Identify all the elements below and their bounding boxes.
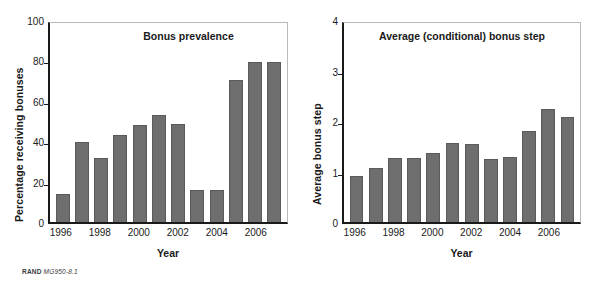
figure-container: Percentage receiving bonuses 02040608010… <box>0 0 591 294</box>
bar <box>190 190 204 222</box>
bar-slot <box>169 23 188 222</box>
bar-slot <box>92 23 111 222</box>
y-axis-tick-label: 20 <box>33 179 44 189</box>
y-axis-tick-label: 0 <box>38 219 44 229</box>
chart-panels: Percentage receiving bonuses 02040608010… <box>0 0 591 262</box>
x-axis-tick-label: 2006 <box>245 228 267 238</box>
bar <box>171 124 185 222</box>
figure-number: MG950-8.1 <box>44 268 78 275</box>
chart-panel-bonus-prevalence: Percentage receiving bonuses 02040608010… <box>0 0 296 262</box>
bar-slot <box>72 23 91 222</box>
bar <box>369 168 383 222</box>
bar-slot <box>558 23 577 222</box>
y-axis-tick-mark <box>338 74 344 75</box>
y-axis-tick-label: 80 <box>33 57 44 67</box>
bar-slot <box>246 23 265 222</box>
y-axis-tick-mark <box>338 124 344 125</box>
bar-slot <box>539 23 558 222</box>
y-axis-tick-label: 100 <box>27 17 44 27</box>
bar <box>75 142 89 222</box>
y-axis-tick-mark <box>44 63 50 64</box>
bar-slot <box>500 23 519 222</box>
bar <box>94 158 108 222</box>
bar-slot <box>366 23 385 222</box>
bar-slot <box>385 23 404 222</box>
y-axis-ticks: 01234 <box>296 22 338 224</box>
bar-slot <box>405 23 424 222</box>
bar <box>267 62 281 222</box>
y-axis-tick-label: 40 <box>33 138 44 148</box>
x-axis-ticks: 199619982000200220042006 <box>342 228 581 244</box>
x-axis-tick-label: 2002 <box>460 228 482 238</box>
x-axis-tick-label: 1998 <box>382 228 404 238</box>
bar-slot <box>111 23 130 222</box>
x-axis-ticks: 199619982000200220042006 <box>48 228 288 244</box>
bar-slot <box>347 23 366 222</box>
y-axis-tick-label: 3 <box>332 68 338 78</box>
bar-slot <box>443 23 462 222</box>
bar <box>465 144 479 222</box>
bar <box>229 80 243 222</box>
bar-slot <box>207 23 226 222</box>
plot-area: Bonus prevalence <box>48 22 288 224</box>
x-axis-label: Year <box>48 247 288 259</box>
x-axis-tick-label: 2004 <box>499 228 521 238</box>
x-axis-label: Year <box>342 247 581 259</box>
bar <box>407 158 421 222</box>
y-axis-ticks: 020406080100 <box>0 22 44 224</box>
bar-slot <box>149 23 168 222</box>
source-note: RANDMG950-8.1 <box>22 268 78 275</box>
y-axis-tick-label: 2 <box>332 118 338 128</box>
bar <box>484 159 498 222</box>
x-axis-tick-label: 1998 <box>89 228 111 238</box>
plot-area: Average (conditional) bonus step <box>342 22 581 224</box>
bar <box>561 117 575 222</box>
y-axis-tick-label: 4 <box>332 17 338 27</box>
bar-slot <box>188 23 207 222</box>
y-axis-tick-mark <box>44 144 50 145</box>
bar <box>152 115 166 222</box>
bar-slot <box>481 23 500 222</box>
bar-slot <box>53 23 72 222</box>
bar <box>56 194 70 222</box>
bar <box>133 125 147 222</box>
x-axis-tick-label: 2006 <box>538 228 560 238</box>
bar <box>503 157 517 222</box>
y-axis-tick-label: 1 <box>332 169 338 179</box>
x-axis-tick-label: 1996 <box>50 228 72 238</box>
bar <box>210 190 224 222</box>
bar-slot <box>462 23 481 222</box>
bar-slot <box>424 23 443 222</box>
x-axis-tick-label: 2004 <box>206 228 228 238</box>
bar-series <box>344 23 580 222</box>
source-org: RAND <box>22 268 42 275</box>
y-axis-tick-mark <box>338 175 344 176</box>
bar-slot <box>520 23 539 222</box>
bar <box>113 135 127 222</box>
bar-slot <box>130 23 149 222</box>
bar <box>248 62 262 222</box>
x-axis-tick-label: 2000 <box>128 228 150 238</box>
y-axis-tick-mark <box>44 104 50 105</box>
y-axis-tick-mark <box>44 185 50 186</box>
x-axis-tick-label: 1996 <box>344 228 366 238</box>
bar <box>522 131 536 222</box>
x-axis-tick-label: 2002 <box>167 228 189 238</box>
bar-slot <box>226 23 245 222</box>
bar <box>426 153 440 222</box>
y-axis-tick-label: 0 <box>332 219 338 229</box>
bar <box>350 176 364 222</box>
chart-panel-average-bonus-step: Average bonus step 01234 Average (condit… <box>296 0 591 262</box>
bar <box>446 143 460 222</box>
y-axis-tick-label: 60 <box>33 98 44 108</box>
bar-slot <box>265 23 284 222</box>
bar <box>388 158 402 222</box>
bar <box>541 109 555 222</box>
bar-series <box>50 23 287 222</box>
x-axis-tick-label: 2000 <box>421 228 443 238</box>
